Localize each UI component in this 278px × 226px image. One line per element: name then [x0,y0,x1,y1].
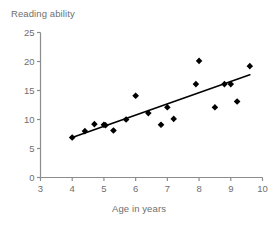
data-point-marker [193,81,200,88]
data-point-marker [158,121,165,128]
data-point-marker [170,116,177,123]
y-tick-label: 5 [29,143,34,154]
y-axis: 0510152025 [24,27,41,183]
data-point-marker [212,104,219,111]
x-tick-label: 4 [70,183,75,194]
x-tick-label: 6 [133,183,138,194]
data-point-marker [196,58,203,65]
y-tick-label: 20 [24,56,35,67]
x-tick-label: 5 [101,183,106,194]
x-tick-label: 8 [196,183,201,194]
x-axis: 345678910 [38,178,268,194]
y-tick-label: 0 [29,172,34,183]
data-point-marker [247,63,254,70]
x-axis-title: Age in years [0,203,278,214]
data-point-marker [110,127,117,134]
data-point-marker [69,134,76,141]
y-tick-label: 15 [24,85,35,96]
scatter-plot-canvas: 0510152025 345678910 [0,0,278,226]
data-point-marker [91,121,98,128]
x-tick-label: 10 [257,183,268,194]
reading-ability-scatter-chart: Reading ability 0510152025 345678910 Age… [0,0,278,226]
data-point-marker [132,92,139,99]
y-tick-label: 10 [24,114,35,125]
data-point-marker [221,81,228,88]
data-point-marker [234,98,241,105]
x-tick-label: 3 [38,183,43,194]
y-tick-label: 25 [24,27,35,38]
x-tick-label: 9 [228,183,233,194]
x-tick-label: 7 [165,183,170,194]
